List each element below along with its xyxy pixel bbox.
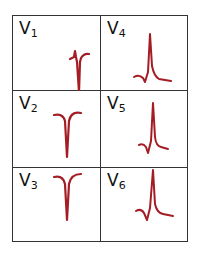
- ecg-lead-grid: V1 V4 V2 V5 V3 V6: [12, 15, 188, 242]
- waveform-v6: [101, 168, 189, 243]
- lead-cell-v2: V2: [13, 91, 101, 167]
- waveform-v4: [101, 16, 189, 91]
- lead-cell-v4: V4: [101, 16, 189, 92]
- lead-cell-v1: V1: [13, 16, 101, 92]
- lead-cell-v3: V3: [13, 168, 101, 244]
- waveform-v2: [13, 91, 101, 167]
- waveform-v1: [13, 16, 101, 91]
- waveform-v5: [101, 91, 189, 167]
- lead-cell-v5: V5: [101, 91, 189, 167]
- lead-cell-v6: V6: [101, 168, 189, 244]
- waveform-v3: [13, 168, 101, 243]
